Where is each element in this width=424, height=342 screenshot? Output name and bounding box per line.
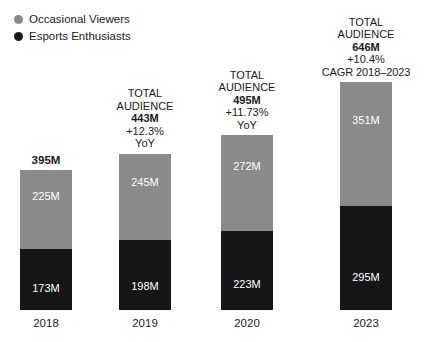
bar-segment-esports-enthusiasts: 223M [221, 231, 273, 310]
x-axis-tick-label: 2020 [234, 317, 260, 329]
bar-2023: 351M 295M [340, 82, 392, 310]
bar-growth-period: YoY [219, 119, 276, 132]
caption-line-audience: AUDIENCE [117, 100, 174, 113]
bar-segment-value: 173M [20, 282, 72, 294]
bar-segment-occasional-viewers: 351M [340, 82, 392, 206]
bar-segment-esports-enthusiasts: 173M [20, 249, 72, 310]
bar-total-value: 495M [219, 94, 276, 107]
caption-line-total: TOTAL [117, 87, 174, 100]
bar-segment-value: 225M [20, 190, 72, 202]
bar-total-value: 443M [117, 112, 174, 125]
bar-segment-value: 198M [119, 280, 171, 292]
bar-segment-esports-enthusiasts: 198M [119, 240, 171, 310]
bar-growth-period: CAGR 2018–2023 [322, 66, 411, 79]
bar-total-value: 646M [322, 41, 411, 54]
bar-total-caption-2020: TOTAL AUDIENCE 495M +11.73% YoY [219, 69, 276, 132]
bar-segment-occasional-viewers: 272M [221, 135, 273, 231]
caption-line-audience: AUDIENCE [322, 28, 411, 41]
x-axis-tick-label: 2019 [132, 317, 158, 329]
caption-line-audience: AUDIENCE [219, 81, 276, 94]
bar-total-caption-2019: TOTAL AUDIENCE 443M +12.3% YoY [117, 87, 174, 150]
caption-line-total: TOTAL [322, 16, 411, 29]
bar-2019: 245M 198M [119, 154, 171, 310]
bar-group-2020: TOTAL AUDIENCE 495M +11.73% YoY 272M 223… [221, 135, 273, 310]
bar-2018: 225M 173M [20, 170, 72, 310]
x-axis-tick-label: 2023 [353, 317, 379, 329]
bar-growth-value: +12.3% [117, 125, 174, 138]
caption-line-total: TOTAL [219, 69, 276, 82]
bar-segment-value: 272M [221, 160, 273, 172]
bar-segment-value: 295M [340, 271, 392, 283]
plot-area: 395M 225M 173M 2018 TOTAL AUDIENCE 443M … [0, 0, 424, 342]
bar-total-caption-2018: 395M [32, 154, 61, 167]
bar-segment-esports-enthusiasts: 295M [340, 206, 392, 310]
bar-growth-value: +10.4% [322, 53, 411, 66]
stacked-bar-chart: Occasional Viewers Esports Enthusiasts 3… [0, 0, 424, 342]
bar-growth-period: YoY [117, 137, 174, 150]
bar-segment-occasional-viewers: 245M [119, 154, 171, 240]
x-axis-tick-label: 2018 [33, 317, 59, 329]
bar-segment-value: 245M [119, 176, 171, 188]
bar-segment-value: 351M [340, 114, 392, 126]
bar-2020: 272M 223M [221, 135, 273, 310]
bar-group-2019: TOTAL AUDIENCE 443M +12.3% YoY 245M 198M… [119, 154, 171, 310]
bar-group-2018: 395M 225M 173M 2018 [20, 170, 72, 310]
bar-total-caption-2023: TOTAL AUDIENCE 646M +10.4% CAGR 2018–202… [322, 16, 411, 79]
bar-growth-value: +11.73% [219, 106, 276, 119]
bar-segment-value: 223M [221, 278, 273, 290]
bar-total-value: 395M [32, 154, 61, 167]
bar-group-2023: TOTAL AUDIENCE 646M +10.4% CAGR 2018–202… [340, 82, 392, 310]
bar-segment-occasional-viewers: 225M [20, 170, 72, 249]
